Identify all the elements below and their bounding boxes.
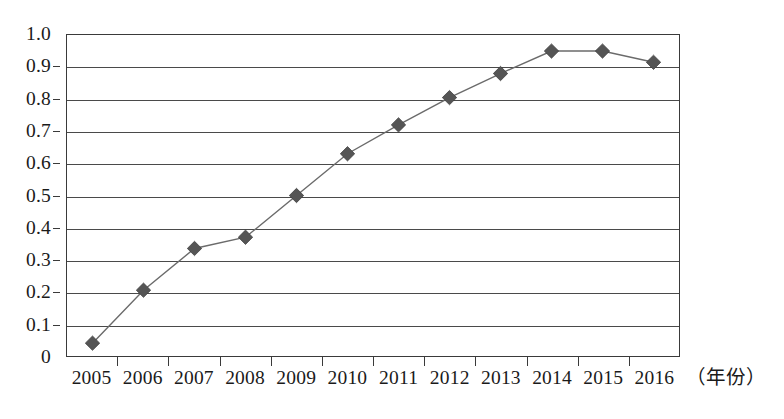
x-tick-mark bbox=[117, 357, 118, 366]
y-tick-mark bbox=[53, 99, 60, 100]
data-point-marker bbox=[595, 44, 609, 58]
y-tick-label: 0.5 bbox=[26, 186, 51, 206]
x-tick-mark bbox=[322, 357, 323, 366]
y-tick-mark bbox=[53, 260, 60, 261]
y-tick-mark bbox=[53, 163, 60, 164]
x-tick-mark bbox=[475, 357, 476, 366]
x-tick-label: 2007 bbox=[174, 367, 214, 388]
y-tick-label: 0 bbox=[41, 347, 51, 367]
data-series bbox=[67, 35, 679, 356]
x-axis-title: （年份） bbox=[686, 367, 766, 388]
y-tick-label: 0.9 bbox=[26, 57, 51, 77]
y-tick-label: 0.3 bbox=[26, 250, 51, 270]
data-point-marker bbox=[391, 118, 405, 132]
x-tick-mark bbox=[424, 357, 425, 366]
x-tick-label: 2006 bbox=[123, 367, 163, 388]
x-tick-mark bbox=[629, 357, 630, 366]
y-tick-mark bbox=[53, 131, 60, 132]
y-tick-label: 0.7 bbox=[26, 121, 51, 141]
x-tick-label: 2012 bbox=[430, 367, 470, 388]
x-axis-labels: 2005200620072008200920102011201220132014… bbox=[66, 367, 680, 397]
line-chart-figure: 00.10.20.30.40.50.60.70.80.91.0 20052006… bbox=[0, 0, 784, 419]
y-tick-label: 0.4 bbox=[26, 218, 51, 238]
series-line bbox=[93, 51, 654, 343]
x-tick-label: 2005 bbox=[72, 367, 112, 388]
data-point-marker bbox=[646, 55, 660, 69]
y-tick-label: 0.1 bbox=[26, 315, 51, 335]
y-tick-label: 0.8 bbox=[26, 89, 51, 109]
x-tick-mark bbox=[527, 357, 528, 366]
data-point-marker bbox=[544, 44, 558, 58]
y-tick-mark bbox=[53, 228, 60, 229]
x-tick-mark bbox=[220, 357, 221, 366]
y-axis: 00.10.20.30.40.50.60.70.80.91.0 bbox=[0, 34, 60, 357]
data-point-marker bbox=[493, 66, 507, 80]
x-tick-mark bbox=[578, 357, 579, 366]
x-tick-label: 2013 bbox=[481, 367, 521, 388]
x-tick-label: 2016 bbox=[635, 367, 675, 388]
x-tick-mark bbox=[168, 357, 169, 366]
x-tick-label: 2008 bbox=[225, 367, 265, 388]
y-tick-label: 0.2 bbox=[26, 283, 51, 303]
y-tick-mark bbox=[53, 292, 60, 293]
x-tick-label: 2010 bbox=[328, 367, 368, 388]
x-tick-label: 2015 bbox=[583, 367, 623, 388]
y-tick-label: 0.6 bbox=[26, 153, 51, 173]
y-tick-label: 1.0 bbox=[26, 24, 51, 44]
y-tick-mark bbox=[53, 196, 60, 197]
y-tick-mark bbox=[53, 66, 60, 67]
x-axis-ticks bbox=[66, 357, 680, 366]
plot-area bbox=[66, 34, 680, 357]
data-point-marker bbox=[442, 90, 456, 104]
y-tick-mark bbox=[53, 325, 60, 326]
x-tick-mark bbox=[271, 357, 272, 366]
x-tick-label: 2014 bbox=[532, 367, 572, 388]
x-tick-mark bbox=[373, 357, 374, 366]
x-tick-label: 2009 bbox=[276, 367, 316, 388]
x-tick-label: 2011 bbox=[379, 367, 418, 388]
